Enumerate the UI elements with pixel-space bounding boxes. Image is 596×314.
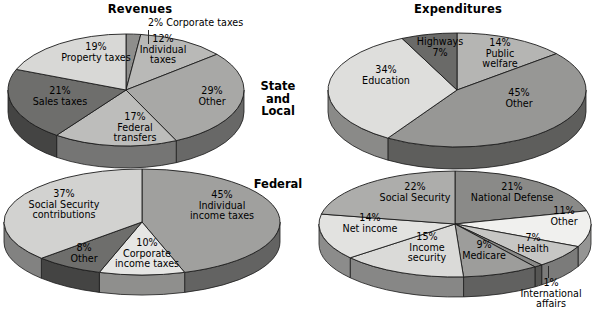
- slice-label-pct: 19%: [48, 42, 144, 53]
- slice-label-pct: 14%: [336, 213, 404, 224]
- slice-label-tl-corporate-taxes: 2% Corporate taxes: [148, 18, 243, 29]
- slice-label-tr-public-welfare: 14% Public welfare: [472, 38, 528, 70]
- slice-label-pct: 7%: [510, 233, 556, 244]
- slice-label-pct: 15%: [398, 232, 456, 243]
- slice-label-pct: 37%: [18, 189, 110, 200]
- slice-label-br-income-security: 15% Income security: [398, 232, 456, 264]
- slice-label-pct: 45%: [178, 190, 266, 201]
- pie-chart-figure: Revenues Expenditures State and Local Fe…: [0, 0, 596, 314]
- slice-label-name-1: Other: [542, 217, 586, 228]
- slice-label-name-2: transfers: [104, 133, 166, 144]
- slice-label-name-1: Other: [494, 99, 544, 110]
- row-label-state-and-local: State and Local: [252, 80, 304, 118]
- slice-label-tr-highways: Highways 7%: [408, 37, 472, 58]
- slice-label-name-2: welfare: [472, 59, 528, 70]
- slice-label-br-social-security: 22% Social Security: [368, 182, 462, 203]
- slice-label-pct: 14%: [472, 38, 528, 49]
- slice-label-text: 2% Corporate taxes: [148, 18, 243, 29]
- slice-label-tl-sales-taxes: 21% Sales taxes: [20, 86, 100, 107]
- slice-label-name-1: Education: [348, 76, 424, 87]
- slice-label-br-health: 7% Health: [510, 233, 556, 254]
- page-title-revenues: Revenues: [60, 2, 220, 16]
- slice-label-bl-individual-income-taxes: 45% Individual income taxes: [178, 190, 266, 222]
- slice-label-tl-property-taxes: 19% Property taxes: [48, 42, 144, 63]
- leader-line-br-international: [548, 266, 549, 278]
- slice-label-pct: 21%: [20, 86, 100, 97]
- slice-label-name-1: Other: [187, 97, 237, 108]
- slice-label-name-1: Health: [510, 244, 556, 255]
- slice-label-name-1: Social Security: [368, 193, 462, 204]
- slice-label-tr-other: 45% Other: [494, 88, 544, 109]
- slice-label-pct: 7%: [408, 48, 472, 59]
- slice-label-br-international-affairs: 1% International affairs: [508, 278, 594, 310]
- slice-label-pct: 45%: [494, 88, 544, 99]
- slice-label-name-1: National Defense: [462, 193, 562, 204]
- slice-label-name-1: Medicare: [455, 251, 513, 262]
- page-title-expenditures: Expenditures: [378, 2, 538, 16]
- slice-label-pct: 8%: [62, 243, 106, 254]
- slice-label-name-2: income taxes: [178, 211, 266, 222]
- row-label-line-1: State: [252, 80, 304, 93]
- slice-label-name-2: affairs: [508, 299, 594, 310]
- pie-chart-bottom-left: [2, 166, 288, 296]
- slice-label-name-2: contributions: [18, 210, 110, 221]
- slice-label-pct: 34%: [348, 65, 424, 76]
- slice-label-pct: 11%: [542, 206, 586, 217]
- slice-label-pct: 21%: [462, 182, 562, 193]
- slice-label-name-1: Highways: [408, 37, 472, 48]
- slice-label-bl-social-security-contributions: 37% Social Security contributions: [18, 189, 110, 221]
- slice-label-bl-corporate-income-taxes: 10% Corporate income taxes: [104, 238, 190, 270]
- slice-label-pct: 1%: [508, 278, 594, 289]
- slice-label-br-net-income: 14% Net income: [336, 213, 404, 234]
- slice-label-tr-education: 34% Education: [348, 65, 424, 86]
- slice-label-name-1: Net income: [336, 224, 404, 235]
- slice-label-name-2: income taxes: [104, 259, 190, 270]
- slice-label-name-1: Sales taxes: [20, 97, 100, 108]
- slice-label-pct: 22%: [368, 182, 462, 193]
- row-label-line-3: Local: [252, 105, 304, 118]
- slice-label-br-medicare: 9% Medicare: [455, 240, 513, 261]
- slice-label-name-2: security: [398, 253, 456, 264]
- slice-label-br-other: 11% Other: [542, 206, 586, 227]
- slice-label-tl-federal-transfers: 17% Federal transfers: [104, 112, 166, 144]
- slice-label-pct: 10%: [104, 238, 190, 249]
- slice-label-bl-other: 8% Other: [62, 243, 106, 264]
- slice-label-pct: 17%: [104, 112, 166, 123]
- slice-label-pct: 9%: [455, 240, 513, 251]
- slice-label-tl-other: 29% Other: [187, 86, 237, 107]
- slice-label-br-national-defense: 21% National Defense: [462, 182, 562, 203]
- slice-label-pct: 29%: [187, 86, 237, 97]
- slice-label-name-1: Property taxes: [48, 53, 144, 64]
- slice-label-name-1: Other: [62, 254, 106, 265]
